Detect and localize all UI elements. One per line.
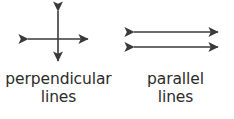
figure-perpendicular: perpendicular lines: [0, 0, 117, 119]
parallel-lines-icon: [117, 0, 234, 70]
perpendicular-caption: perpendicular lines: [0, 70, 117, 106]
perpendicular-lines-svg: [0, 0, 117, 70]
parallel-caption-line-2: lines: [117, 88, 234, 106]
perpendicular-caption-line-1: perpendicular: [0, 70, 117, 88]
parallel-caption-line-1: parallel: [117, 70, 234, 88]
figure-parallel: parallel lines: [117, 0, 234, 119]
perpendicular-lines-icon: [0, 0, 117, 70]
perpendicular-caption-line-2: lines: [0, 88, 117, 106]
parallel-caption: parallel lines: [117, 70, 234, 106]
geometry-figure: perpendicular lines parallel lines: [0, 0, 234, 119]
parallel-lines-svg: [117, 0, 234, 70]
